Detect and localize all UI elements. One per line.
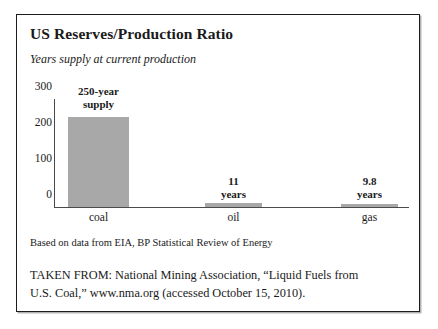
- attribution-line-1: TAKEN FROM: National Mining Association,…: [30, 267, 408, 285]
- figure-container: US Reserves/Production Ratio Years suppl…: [16, 14, 420, 312]
- bar-oil: [205, 203, 262, 207]
- attribution-line-2: U.S. Coal,” www.nma.org (accessed Octobe…: [30, 285, 408, 303]
- bar-label-oil: 11 years: [193, 175, 274, 200]
- bar-gas: [341, 204, 398, 208]
- bar-label-gas: 9.8 years: [329, 175, 410, 200]
- bar-label-coal-line1: 250-year: [78, 85, 119, 97]
- bar-label-oil-line1: 11: [228, 175, 238, 187]
- bar-coal: [68, 117, 129, 207]
- x-category-gas: gas: [329, 211, 410, 223]
- chart-plot-area: 300 200 100 0 250-year supply 11 years 9…: [17, 87, 421, 235]
- bar-label-gas-line1: 9.8: [363, 175, 377, 187]
- x-category-oil: oil: [193, 211, 274, 223]
- bar-label-coal: 250-year supply: [58, 85, 139, 110]
- bar-label-coal-line2: supply: [83, 98, 114, 110]
- y-tick-300: 300: [22, 81, 52, 93]
- page-title: US Reserves/Production Ratio: [30, 25, 233, 43]
- x-category-coal: coal: [58, 211, 139, 223]
- bar-label-gas-line2: years: [357, 188, 382, 200]
- bar-label-oil-line2: years: [221, 188, 246, 200]
- attribution-text: TAKEN FROM: National Mining Association,…: [30, 267, 408, 302]
- source-note: Based on data from EIA, BP Statistical R…: [30, 237, 273, 248]
- chart-subtitle: Years supply at current production: [30, 52, 196, 67]
